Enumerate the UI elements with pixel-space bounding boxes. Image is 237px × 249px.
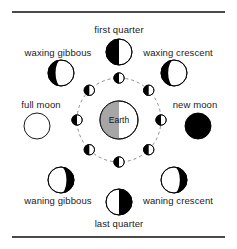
moon-phases-figure: Earth first quarterwaxing gibbouswaxing … [0,0,237,249]
orbit-moon-lower-left-dark-half [84,144,89,154]
phase-full-moon-disc [24,113,50,139]
phase-moon-waxing-crescent[interactable] [161,60,187,86]
phase-moon-waxing-gibbous[interactable] [48,60,74,86]
moon-phases-diagram: Earth [0,0,237,249]
orbit-moon-lower-left [84,144,94,154]
phase-moon-waning-crescent[interactable] [161,167,187,193]
orbit-moon-upper-left-dark-half [84,85,89,95]
orbit-moon-top-dark-half [114,73,119,83]
orbit-moon-left [72,115,82,125]
orbit-moon-bottom-dark-half [114,157,119,167]
phase-last-quarter-dark-half [119,189,132,215]
phase-first-quarter-dark-half [106,39,119,65]
phase-label-first-quarter: first quarter [94,24,143,35]
orbit-moon-upper-right [143,85,153,95]
orbit-moon-right-dark-half [156,115,161,125]
phase-label-waxing-crescent: waxing crescent [143,47,213,58]
orbit-moon-left-dark-half [72,115,77,125]
phase-moon-last-quarter[interactable] [106,189,132,215]
phase-label-waning-gibbous: waning gibbous [24,195,91,206]
phase-moon-new-moon[interactable] [185,113,211,139]
earth-group: Earth [100,101,138,139]
phase-moon-waning-gibbous[interactable] [48,167,74,193]
orbit-moon-bottom [114,157,124,167]
phase-moon-first-quarter[interactable] [106,39,132,65]
phase-label-full-moon: full moon [21,99,60,110]
phase-label-last-quarter: last quarter [95,218,144,229]
phase-label-waning-crescent: waning crescent [143,195,213,206]
orbit-moon-lower-right [143,144,153,154]
phase-label-waxing-gibbous: waxing gibbous [25,47,92,58]
orbit-moon-top [114,73,124,83]
phase-label-new-moon: new moon [173,99,218,110]
orbit-moon-upper-left [84,85,94,95]
earth-label: Earth [109,115,130,125]
phase-new-moon-disc [185,113,211,139]
phase-moon-full-moon[interactable] [24,113,50,139]
orbit-moon-right [156,115,166,125]
